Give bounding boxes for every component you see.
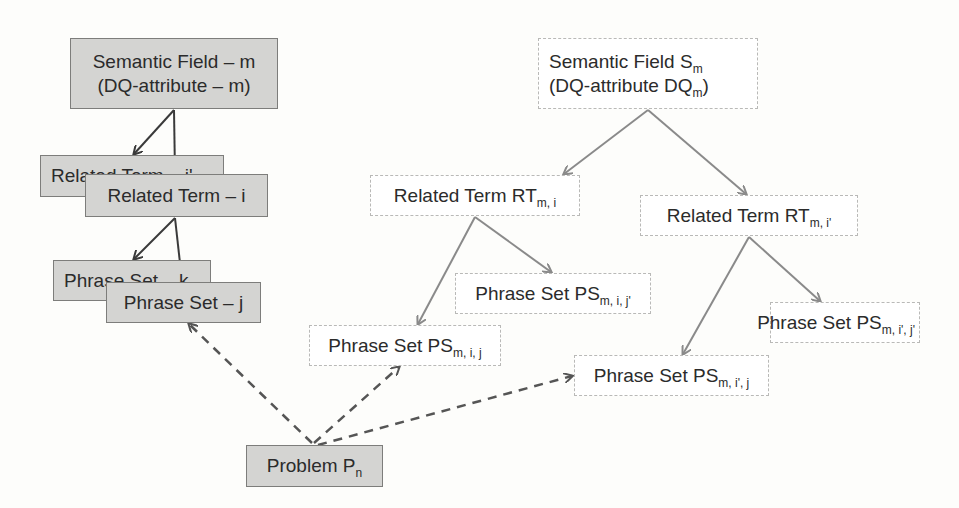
node-label: Related Term – i — [108, 184, 246, 208]
node-label: (DQ-attribute – m) — [97, 74, 250, 98]
semantic-field-sm-node: Semantic Field Sm (DQ-attribute DQm) — [538, 38, 758, 109]
node-label: Semantic Field – m — [93, 50, 256, 74]
phrase-set-ps-m-i-j-prime-node: Phrase Set PSm, i, j' — [455, 273, 651, 314]
node-label: Phrase Set PSm, i, j' — [475, 282, 631, 306]
node-label: Related Term RTm, i' — [667, 204, 832, 228]
phrase-set-j-node: Phrase Set – j — [106, 282, 261, 323]
node-label: Phrase Set PSm, i', j' — [757, 311, 915, 335]
node-label: Phrase Set PSm, i', j — [594, 364, 750, 388]
node-label: Phrase Set – j — [124, 291, 243, 315]
node-label: Phrase Set PSm, i, j — [328, 334, 481, 358]
node-label: Semantic Field Sm — [549, 50, 703, 74]
phrase-set-ps-m-i-prime-j-node: Phrase Set PSm, i', j — [574, 355, 769, 396]
phrase-set-ps-m-i-prime-j-prime-node: Phrase Set PSm, i', j' — [770, 302, 920, 343]
related-term-rt-m-i-node: Related Term RTm, i — [370, 175, 580, 216]
node-label: Problem Pn — [267, 454, 362, 478]
related-term-i-node: Related Term – i — [85, 174, 268, 217]
related-term-rt-m-i-prime-node: Related Term RTm, i' — [640, 195, 858, 236]
problem-node: Problem Pn — [246, 445, 383, 487]
semantic-field-m-node: Semantic Field – m (DQ-attribute – m) — [70, 38, 278, 109]
phrase-set-ps-m-i-j-node: Phrase Set PSm, i, j — [309, 325, 501, 366]
node-label: Related Term RTm, i — [394, 184, 556, 208]
node-label: (DQ-attribute DQm) — [549, 74, 709, 98]
